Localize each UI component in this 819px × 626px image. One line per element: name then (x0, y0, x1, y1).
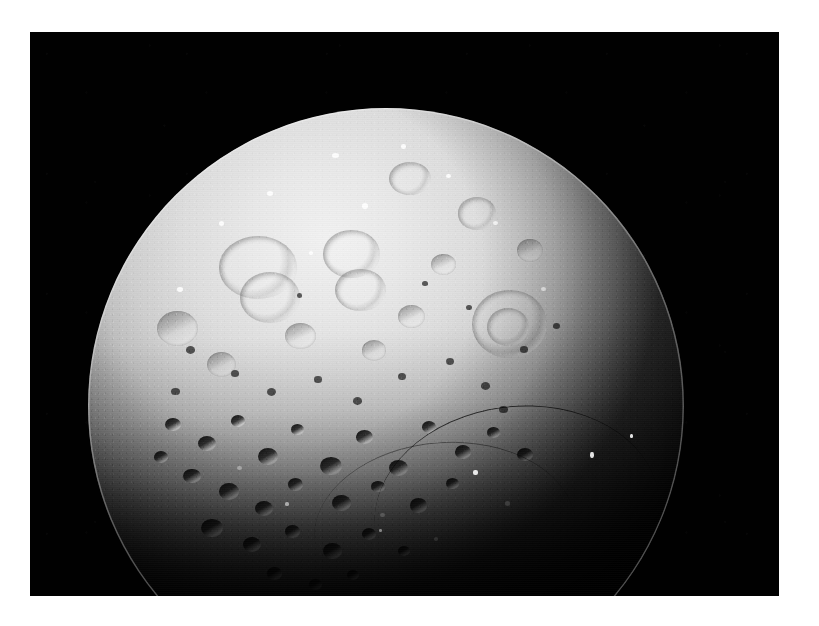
crater-north-polar (389, 162, 431, 195)
crater-upper-central (335, 269, 386, 311)
crater-pit (165, 418, 180, 431)
crater-eastern-ringed (472, 290, 547, 359)
crater-pit (309, 579, 322, 590)
dark-spot (297, 293, 302, 298)
crater-pit (231, 415, 245, 427)
dark-spot (481, 382, 490, 390)
bright-speck (332, 153, 339, 158)
dark-spot (314, 376, 321, 383)
bright-speck (362, 203, 368, 208)
crater-pit (455, 445, 472, 459)
bright-speck (237, 466, 242, 470)
terminator-shading (88, 108, 684, 596)
crater-western-double-basin-b (240, 272, 300, 323)
crater-pit (347, 570, 359, 580)
crater-pit (410, 498, 427, 512)
crater-pit (517, 448, 532, 461)
dark-spot (466, 305, 472, 310)
crater-pit (255, 501, 273, 516)
dark-spot (422, 281, 428, 286)
crater-pit (183, 469, 201, 484)
moon-disc (88, 108, 684, 596)
crater-pit (398, 546, 410, 556)
crater-pit (201, 519, 222, 537)
bright-speck (309, 251, 314, 255)
dark-spot (499, 406, 507, 413)
dark-spot (553, 323, 560, 329)
terminator-scarp (362, 389, 672, 596)
crater-pit (154, 451, 168, 463)
photograph-plate (30, 32, 779, 596)
terminator-scarp-secondary (309, 433, 583, 596)
crater-pit (258, 448, 278, 465)
bright-speck (541, 287, 546, 291)
crater-west-limb-large (157, 311, 199, 347)
crater-central-bright-basin (323, 230, 380, 278)
crater-eastern-ringed-inner (487, 308, 529, 346)
dark-spot (398, 373, 406, 380)
crater-pit (356, 430, 373, 444)
bright-speck (401, 144, 406, 149)
crater-pit (446, 478, 459, 489)
crater-pit (487, 427, 500, 438)
crater-pit (422, 421, 436, 433)
crater-pit (332, 495, 351, 511)
dark-spot (267, 388, 277, 396)
crater-midfield-c (431, 254, 456, 275)
crater-pit (320, 457, 341, 475)
crater-pit (243, 537, 261, 552)
scanline-artifact (88, 108, 684, 596)
crater-midfield-e (517, 239, 543, 262)
bright-speck (493, 221, 498, 225)
dark-spot (353, 397, 362, 405)
bright-speck (446, 174, 451, 179)
crater-midfield-f (207, 352, 236, 377)
dark-spot (186, 346, 195, 354)
crater-pit (285, 525, 300, 538)
bright-speck (267, 191, 273, 196)
crater-pit (198, 436, 216, 451)
crater-midfield-d (362, 340, 386, 360)
bright-speck (434, 537, 438, 541)
bright-speck (505, 501, 510, 505)
bright-speck (219, 221, 224, 226)
dark-spot (231, 370, 239, 377)
dark-spot (520, 346, 528, 353)
crater-pit (291, 424, 304, 435)
moon-body (88, 108, 684, 596)
crater-pit (323, 543, 342, 559)
crater-pit (267, 567, 282, 580)
bright-speck (380, 513, 385, 517)
crater-midfield-a (285, 323, 316, 349)
crater-pit (219, 483, 239, 500)
crater-pit (371, 481, 385, 493)
regolith-texture (88, 108, 684, 596)
crater-pit (288, 478, 303, 491)
crater-pit (362, 528, 376, 540)
dark-spot (171, 388, 179, 395)
crater-pit (389, 460, 408, 476)
bright-speck (177, 287, 182, 292)
limb-highlight (88, 108, 684, 596)
crater-northeast-rim (458, 197, 497, 229)
crater-western-double-basin (219, 236, 296, 299)
page-root (0, 0, 819, 626)
dark-spot (446, 358, 454, 365)
crater-midfield-b (398, 305, 425, 328)
limb-shading (88, 108, 684, 596)
